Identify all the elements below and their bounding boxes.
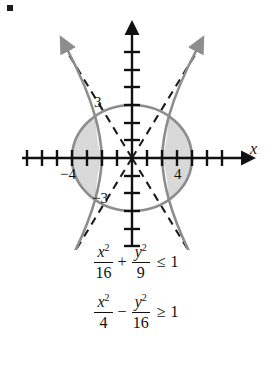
relation-greater-or-equal: ≥: [154, 304, 166, 320]
fraction-y-squared-over-sixteen: y2 16: [132, 293, 150, 331]
numerator-variable: x: [97, 243, 104, 260]
x-axis-label: x: [250, 140, 257, 158]
operator-minus: −: [117, 304, 128, 320]
numerator-exponent: 2: [105, 292, 110, 303]
numerator-variable: x: [97, 293, 104, 310]
figure-root: x −4 4 3 −3 x2 16 + y2 9 ≤ 1 x: [0, 0, 272, 375]
fraction-y-squared-over-nine: y2 9: [132, 243, 150, 281]
equation-ellipse-inequality: x2 16 + y2 9 ≤ 1: [0, 243, 272, 281]
operator-plus: +: [117, 254, 128, 270]
numerator-variable: y: [135, 293, 142, 310]
y-axis: [124, 33, 140, 246]
equation-list: x2 16 + y2 9 ≤ 1 x2 4 − y2: [0, 243, 272, 343]
shaded-region-left: [0, 0, 272, 250]
denominator: 9: [137, 263, 145, 282]
right-hand-side: 1: [169, 254, 179, 270]
right-hand-side: 1: [169, 304, 179, 320]
numerator-exponent: 2: [142, 242, 147, 253]
coordinate-plot: [0, 0, 272, 250]
relation-less-or-equal: ≤: [154, 254, 166, 270]
numerator-exponent: 2: [105, 242, 110, 253]
fraction-x-squared-over-four: x2 4: [94, 293, 112, 331]
shaded-region-right: [0, 0, 272, 250]
y-tick-label-three: 3: [94, 94, 102, 111]
x-tick-label-negative-four: −4: [60, 166, 76, 183]
fraction-x-squared-over-sixteen: x2 16: [94, 243, 112, 281]
equation-hyperbola-inequality: x2 4 − y2 16 ≥ 1: [0, 293, 272, 331]
numerator-variable: y: [135, 243, 142, 260]
denominator: 4: [100, 313, 108, 332]
denominator: 16: [133, 313, 149, 332]
x-tick-label-four: 4: [174, 166, 182, 183]
numerator-exponent: 2: [142, 292, 147, 303]
denominator: 16: [96, 263, 112, 282]
y-tick-label-negative-three: −3: [92, 190, 108, 207]
